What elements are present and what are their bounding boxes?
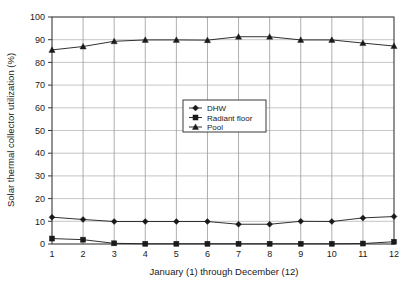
x-tick-label: 8 bbox=[267, 249, 272, 259]
x-tick-label: 10 bbox=[327, 249, 337, 259]
legend-label: Radiant floor bbox=[207, 114, 253, 123]
marker-square bbox=[329, 241, 334, 246]
y-axis-title: Solar thermal collector utilization (%) bbox=[5, 53, 16, 207]
x-tick-label: 1 bbox=[49, 249, 54, 259]
chart-figure: 0102030405060708090100 123456789101112 J… bbox=[0, 0, 413, 290]
x-axis-title: January (1) through December (12) bbox=[150, 266, 299, 277]
chart-legend: DHWRadiant floorPool bbox=[183, 100, 266, 132]
marker-square bbox=[81, 237, 86, 242]
y-tick-label: 90 bbox=[35, 35, 45, 45]
y-tick-label: 100 bbox=[30, 12, 45, 22]
line-chart: 0102030405060708090100 123456789101112 J… bbox=[0, 0, 413, 290]
marker-square bbox=[236, 241, 241, 246]
x-tick-label: 12 bbox=[389, 249, 399, 259]
y-tick-label: 40 bbox=[35, 148, 45, 158]
y-tick-label: 60 bbox=[35, 103, 45, 113]
marker-square bbox=[205, 241, 210, 246]
marker-square bbox=[50, 236, 55, 241]
x-tick-label: 4 bbox=[143, 249, 148, 259]
x-tick-label: 7 bbox=[236, 249, 241, 259]
x-tick-label: 2 bbox=[81, 249, 86, 259]
marker-square bbox=[392, 239, 397, 244]
marker-square bbox=[174, 241, 179, 246]
y-tick-label: 0 bbox=[40, 239, 45, 249]
x-tick-label: 11 bbox=[358, 249, 367, 259]
marker-square bbox=[360, 241, 365, 246]
x-tick-label: 5 bbox=[174, 249, 179, 259]
y-tick-label: 20 bbox=[35, 194, 45, 204]
y-tick-label: 80 bbox=[35, 58, 45, 68]
x-tick-label: 6 bbox=[205, 249, 210, 259]
x-tick-label: 3 bbox=[112, 249, 117, 259]
marker-square bbox=[267, 241, 272, 246]
marker-square bbox=[112, 241, 117, 246]
y-tick-label: 30 bbox=[35, 171, 45, 181]
y-tick-label: 70 bbox=[35, 80, 45, 90]
marker-square bbox=[143, 241, 148, 246]
marker-square bbox=[298, 241, 303, 246]
marker-square bbox=[193, 115, 198, 120]
legend-label: DHW bbox=[207, 104, 227, 113]
legend-label: Pool bbox=[207, 123, 223, 132]
y-tick-label: 10 bbox=[35, 217, 45, 227]
x-tick-label: 9 bbox=[298, 249, 303, 259]
y-tick-label: 50 bbox=[35, 126, 45, 136]
